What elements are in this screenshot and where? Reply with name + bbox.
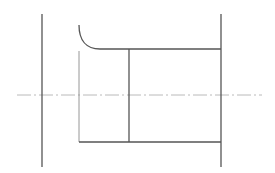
fillet-arc [79, 25, 100, 49]
technical-drawing-canvas [0, 0, 275, 173]
